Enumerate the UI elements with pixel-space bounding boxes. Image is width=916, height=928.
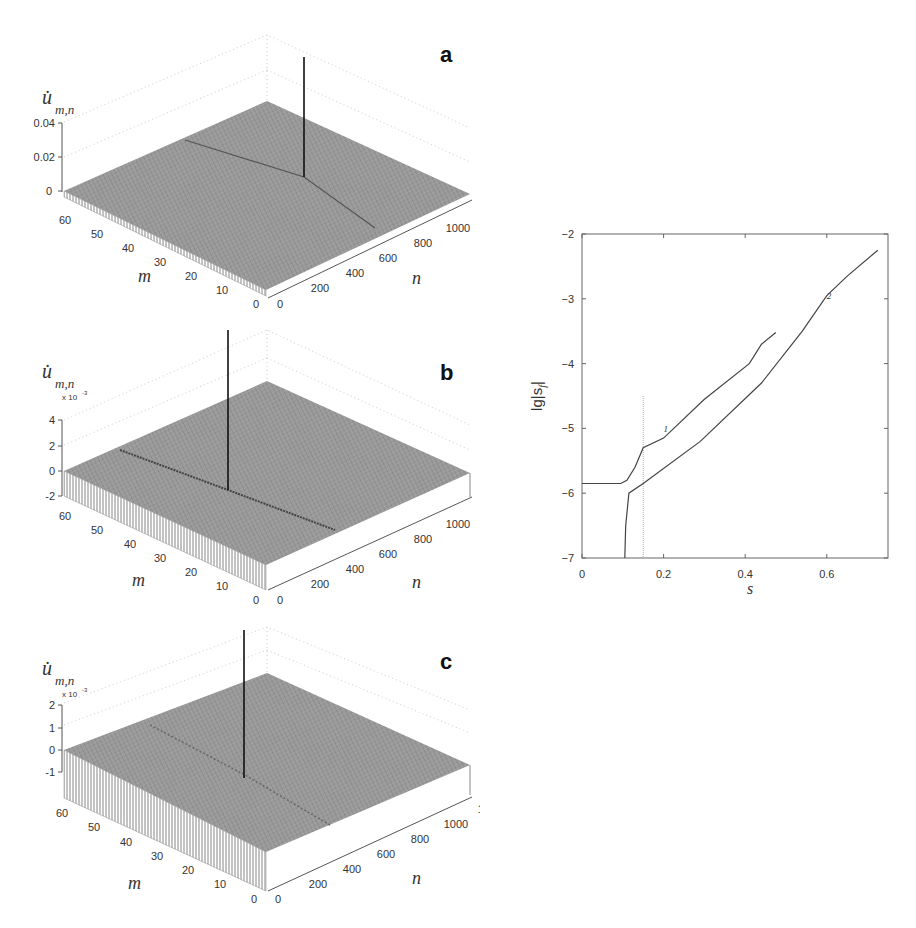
curve-label-1: 1 [664, 424, 669, 434]
m-tick: 60 [59, 510, 71, 522]
y-ticks: −7−6−5−4−3−2 [561, 228, 888, 564]
y-axis-label: lg|sf| [528, 381, 548, 411]
panel-letter: a [440, 42, 453, 67]
n-tick: 1000 [446, 518, 470, 530]
surface-plot-c: 2 1 0 -1 60 50 40 30 20 10 0 m 0 200 400… [0, 615, 480, 928]
n-tick: 200 [309, 878, 327, 890]
surface-plot-a: 0.04 0.02 0 60 50 40 30 20 10 0 m 0 200 … [0, 0, 480, 320]
z-axis-label-sub: m,n [55, 673, 74, 688]
n-tick: 600 [379, 252, 397, 264]
x-tick-label: 0.2 [656, 568, 671, 580]
panel-letter: c [440, 649, 452, 674]
n-axis-label: n [412, 268, 421, 288]
n-tick: 600 [379, 548, 397, 560]
z-tick: 1 [49, 722, 55, 734]
z-axis-label: u̇ [42, 360, 52, 382]
x-axis-label: s [747, 580, 753, 597]
n-tick: 1000 [444, 818, 468, 830]
z-multiplier-exp: -3 [82, 687, 88, 693]
z-tick: 0 [49, 465, 55, 477]
z-multiplier-exp: -3 [82, 390, 88, 396]
m-tick: 30 [154, 256, 166, 268]
n-axis-label: n [412, 572, 421, 592]
x-ticks: 00.20.40.6 [579, 234, 835, 580]
m-tick: 60 [56, 807, 68, 819]
z-tick: 2 [49, 440, 55, 452]
m-tick: 20 [185, 270, 197, 282]
m-tick: 40 [124, 538, 136, 550]
y-tick-label: −4 [561, 358, 574, 370]
curve-label-2: 2 [827, 291, 832, 301]
surface-plot-b: 4 2 0 -2 60 50 40 30 20 10 0 m 0 200 400… [0, 320, 480, 615]
n-tick: 400 [346, 267, 364, 279]
z-axis-label: u̇ [42, 86, 52, 108]
m-tick: 50 [91, 228, 103, 240]
panel-b: 4 2 0 -2 60 50 40 30 20 10 0 m 0 200 400… [0, 320, 480, 615]
m-tick: 20 [182, 864, 194, 876]
m-tick: 50 [88, 821, 100, 833]
z-tick: 0 [49, 744, 55, 756]
surface [64, 101, 470, 290]
y-tick-label: −6 [561, 487, 574, 499]
n-tick: 400 [343, 863, 361, 875]
curve-1 [582, 333, 776, 484]
n-tick: 800 [411, 833, 429, 845]
z-tick: 4 [49, 414, 55, 426]
z-tick: 0.02 [34, 151, 55, 163]
z-axis-label-sub: m,n [55, 376, 74, 391]
z-axis-label: u̇ [42, 657, 52, 679]
z-multiplier: x 10 [62, 690, 78, 699]
panel-a: 0.04 0.02 0 60 50 40 30 20 10 0 m 0 200 … [0, 0, 480, 320]
n-tick: 200 [311, 282, 329, 294]
m-tick: 10 [216, 580, 228, 592]
m-tick: 40 [122, 242, 134, 254]
n-tick: 800 [414, 533, 432, 545]
m-tick: 40 [120, 836, 132, 848]
line-plot: −7−6−5−4−3−2 00.20.40.6 1 2 s lg|sf| [520, 220, 916, 610]
n-tick: 800 [414, 237, 432, 249]
panel-c: 2 1 0 -1 60 50 40 30 20 10 0 m 0 200 400… [0, 615, 480, 928]
m-tick: 30 [151, 850, 163, 862]
z-tick: 2 [49, 699, 55, 711]
m-tick: 0 [253, 298, 259, 310]
m-tick: 0 [251, 893, 257, 905]
y-tick-label: −7 [561, 552, 574, 564]
n-tick: 0 [275, 893, 281, 905]
n-tick: 1000 [446, 222, 470, 234]
m-tick: 50 [91, 524, 103, 536]
m-tick: 10 [216, 284, 228, 296]
n-tick: 0 [277, 594, 283, 606]
y-tick-label: −3 [561, 293, 574, 305]
m-tick: 10 [214, 878, 226, 890]
z-tick: -2 [45, 490, 55, 502]
lg-sf-vs-s-chart: −7−6−5−4−3−2 00.20.40.6 1 2 s lg|sf| [520, 220, 916, 610]
m-tick: 30 [154, 552, 166, 564]
n-tick: 1200 [478, 803, 480, 815]
n-tick: 400 [346, 563, 364, 575]
m-tick: 60 [59, 214, 71, 226]
z-tick: 0.04 [34, 117, 55, 129]
m-tick: 0 [253, 594, 259, 606]
m-axis-label: m [128, 873, 141, 893]
z-multiplier: x 10 [62, 393, 78, 402]
x-tick-label: 0.4 [738, 568, 753, 580]
n-axis-label: n [412, 868, 421, 888]
m-axis-label: m [138, 266, 151, 286]
y-tick-label: −2 [561, 228, 574, 240]
z-axis-label-sub: m,n [55, 102, 74, 117]
z-tick: 0 [46, 185, 52, 197]
n-tick: 200 [311, 578, 329, 590]
n-tick: 0 [277, 298, 283, 310]
z-tick: -1 [45, 766, 55, 778]
panel-letter: b [440, 360, 453, 385]
y-tick-label: −5 [561, 422, 574, 434]
x-tick-label: 0.6 [819, 568, 834, 580]
m-axis-label: m [132, 570, 145, 590]
curve-2 [625, 250, 878, 558]
m-tick: 20 [185, 566, 197, 578]
n-tick: 600 [377, 848, 395, 860]
x-tick-label: 0 [579, 568, 585, 580]
svg-text:lg|sf|: lg|sf| [528, 381, 548, 411]
